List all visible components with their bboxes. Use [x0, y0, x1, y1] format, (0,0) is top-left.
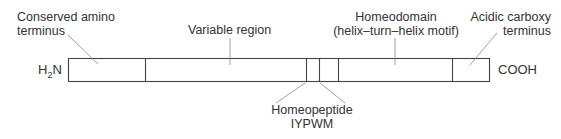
label-line: Homeodomain: [323, 10, 469, 24]
label-line: IYPWM: [262, 117, 362, 131]
label-acidic-carboxy-terminus: Acidic carboxy terminus: [466, 10, 551, 38]
c-terminus-label: COOH: [498, 63, 537, 77]
label-line: Acidic carboxy: [466, 10, 551, 24]
protein-bar: [69, 59, 490, 82]
leader-conserved: [68, 35, 98, 64]
label-line: terminus: [17, 24, 115, 38]
label-line: Conserved amino: [17, 10, 115, 24]
label-conserved-amino-terminus: Conserved amino terminus: [17, 10, 115, 38]
leader-homeopeptide-left: [276, 83, 305, 103]
leader-homeopeptide-right: [320, 83, 345, 103]
n-terminus-h: H: [38, 62, 47, 77]
n-terminus-n: N: [52, 62, 61, 77]
c-terminus-cooh: COOH: [498, 62, 537, 77]
n-terminus-label: H2N: [38, 63, 62, 82]
label-line: Variable region: [188, 23, 271, 37]
label-line: terminus: [466, 24, 551, 38]
label-variable-region: Variable region: [188, 23, 271, 37]
label-homeopeptide: Homeopeptide IYPWM: [262, 103, 362, 131]
label-homeodomain: Homeodomain (helix–turn–helix motif): [323, 10, 469, 38]
label-line: Homeopeptide: [262, 103, 362, 117]
label-line: (helix–turn–helix motif): [323, 24, 469, 38]
